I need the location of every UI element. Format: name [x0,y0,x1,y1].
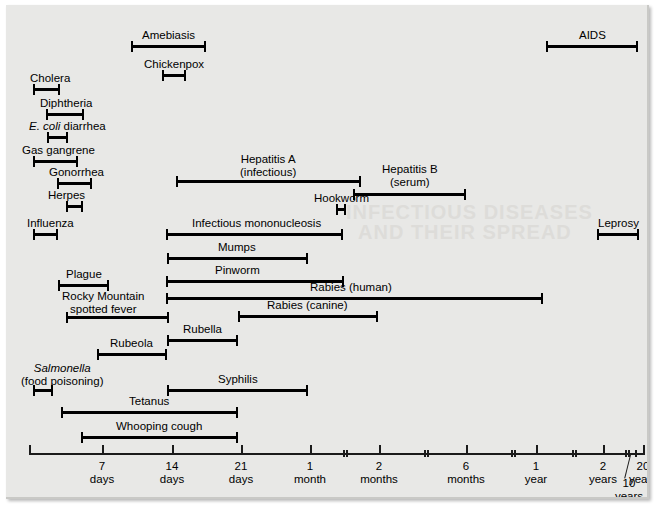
bar-label-influenza: Influenza [27,217,74,230]
bar-label-leprosy: Leprosy [598,217,639,230]
bar-herpes [66,205,83,208]
x-axis-tick-13 [635,450,637,457]
bar-label-rocky-mountain-spotted-fever: Rocky Mountainspotted fever [62,290,144,315]
x-axis-tick-12 [625,450,627,457]
bar-gonorrhea [57,182,92,185]
bar-diphtheria [46,113,84,116]
bar-label-e-coli-diarrhea: E. coli diarrhea [29,120,106,133]
bar-label-cholera: Cholera [30,72,70,85]
bar-hookworm [336,208,346,211]
bar-rabies-canine [238,315,378,318]
x-axis-tick-14 [643,445,645,455]
x-axis-tick-9 [536,445,538,455]
bar-label-diphtheria: Diphtheria [40,97,92,110]
x-axis-tick-7 [466,445,468,455]
bar-hepatitis-a-infectious [176,180,361,183]
x-axis-tick-label-1-year: 1year [525,460,547,486]
x-axis-tick-label-21-days: 21days [229,460,253,486]
bar-label-plague: Plague [66,268,102,281]
x-axis-tick-label-1-month: 1month [294,460,326,486]
bar-salmonella-food-poisoning [33,389,53,392]
incubation-period-chart-figure: INFECTIOUS DISEASES AND THEIR SPREAD Ame… [0,0,658,506]
bar-label-herpes: Herpes [48,189,85,202]
bar-label-rubella: Rubella [183,323,222,336]
bar-rubeola [97,353,167,356]
bar-tetanus [61,411,238,414]
x-axis-tick-label-2-years: 2years [589,460,617,486]
bar-label-gonorrhea: Gonorrhea [49,166,104,179]
bar-label-amebiasis: Amebiasis [142,29,195,42]
bar-aids [546,45,638,48]
bar-rabies-human [166,297,543,300]
bar-e-coli-diarrhea [47,136,68,139]
plot-area: AmebiasisAIDSChickenpoxCholeraDiphtheria… [6,5,647,497]
bar-label-infectious-mononucleosis: Infectious mononucleosis [192,217,321,230]
bar-label-aids: AIDS [579,29,606,42]
x-axis-endcap-left [29,445,31,455]
x-axis-tick-label-2-months: 2months [360,460,398,486]
bar-leprosy [597,233,639,236]
bar-whooping-cough [81,436,238,439]
bar-label-salmonella-food-poisoning: Salmonella(food poisoning) [21,362,103,387]
x-axis-tick-2 [241,445,243,455]
x-axis-tick-10 [572,450,574,457]
x-axis-tick-label-6-months: 6months [447,460,485,486]
x-axis-tick-label-7-days: 7days [90,460,114,486]
x-axis-tick-4 [343,450,345,457]
bar-rocky-mountain-spotted-fever [66,316,169,319]
x-axis-tick-5 [379,445,381,455]
bar-label-syphilis: Syphilis [218,373,258,386]
bar-label-rubeola: Rubeola [110,337,153,350]
bar-amebiasis [131,45,206,48]
bar-label-hepatitis-a-infectious: Hepatitis A(infectious) [240,153,296,178]
x-axis-tick-label-14-days: 14days [160,460,184,486]
bar-label-hepatitis-b-serum: Hepatitis B(serum) [382,163,438,188]
bar-label-whooping-cough: Whooping cough [116,420,202,433]
bar-label-gas-gangrene: Gas gangrene [22,144,95,157]
bar-influenza [33,233,58,236]
x-axis-tick-11 [603,445,605,455]
bar-rubella [167,339,238,342]
bar-label-rabies-human: Rabies (human) [310,281,392,294]
figure-paper-panel: INFECTIOUS DISEASES AND THEIR SPREAD Ame… [6,5,649,499]
bar-hepatitis-b-serum [353,193,466,196]
x-axis-tick-label-20-years: 20years [629,460,649,486]
bar-plague [58,284,109,287]
bar-syphilis [167,389,308,392]
bar-label-pinworm: Pinworm [215,264,260,277]
bar-mumps [167,257,308,260]
bar-label-mumps: Mumps [218,241,256,254]
x-axis-tick-1 [172,445,174,455]
x-axis-tick-0 [102,445,104,455]
bar-cholera [33,88,60,91]
x-axis-tick-3 [310,445,312,455]
x-axis-tick-8 [511,450,513,457]
x-axis-line [29,453,645,455]
x-axis-tick-6 [424,450,426,457]
bar-label-hookworm: Hookworm [314,192,369,205]
bar-chickenpox [162,74,186,77]
bar-label-chickenpox: Chickenpox [144,58,204,71]
bar-label-rabies-canine: Rabies (canine) [267,299,348,312]
bar-label-tetanus: Tetanus [129,395,169,408]
bar-infectious-mononucleosis [166,233,343,236]
bar-gas-gangrene [33,160,78,163]
